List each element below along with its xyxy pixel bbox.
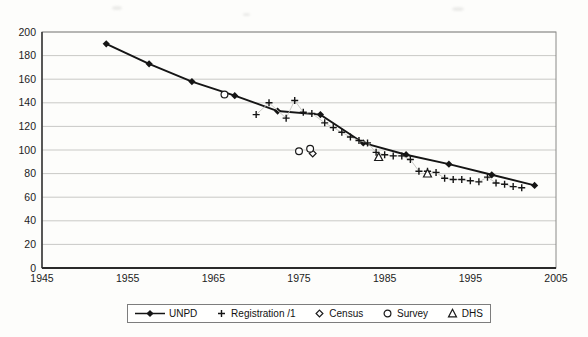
x-tick-label: 2005 xyxy=(544,272,568,284)
y-tick-label: 80 xyxy=(24,167,36,179)
series-connector-line xyxy=(256,100,522,187)
y-tick-label: 20 xyxy=(24,238,36,250)
plus-marker xyxy=(390,152,397,159)
legend-item-unpd: UNPD xyxy=(135,308,197,319)
plus-marker xyxy=(308,110,315,117)
y-tick-label: 180 xyxy=(18,49,36,61)
y-tick-label: 200 xyxy=(18,26,36,38)
y-tick-label: 140 xyxy=(18,96,36,108)
legend-item-census: Census xyxy=(314,308,363,319)
legend-label: Census xyxy=(329,308,363,319)
open-triangle-legend-icon xyxy=(447,308,458,319)
plus-marker xyxy=(493,180,500,187)
series-survey xyxy=(221,91,313,154)
filled-diamond-legend-icon xyxy=(135,308,165,319)
plus-marker xyxy=(347,134,354,141)
y-tick-label: 100 xyxy=(18,144,36,156)
plus-marker xyxy=(300,109,307,116)
diamond-marker xyxy=(146,310,153,317)
circle-marker xyxy=(296,148,303,155)
plus-legend-icon xyxy=(216,308,227,319)
plus-marker xyxy=(381,151,388,158)
y-tick-label: 60 xyxy=(24,191,36,203)
legend-item-dhs: DHS xyxy=(447,308,483,319)
y-tick-label: 120 xyxy=(18,120,36,132)
chart-legend: UNPDRegistration /1CensusSurveyDHS xyxy=(127,304,491,323)
y-tick-label: 40 xyxy=(24,214,36,226)
series-registration-1 xyxy=(253,97,526,191)
plus-marker xyxy=(433,169,440,176)
circle-marker xyxy=(384,310,391,317)
open-diamond-marker xyxy=(316,310,323,317)
chart-plot-area: 0204060801001201401601802001945195519651… xyxy=(0,0,588,337)
diamond-marker xyxy=(103,40,110,47)
circle-marker xyxy=(307,145,314,152)
diamond-marker xyxy=(231,92,238,99)
x-tick-label: 1945 xyxy=(30,272,54,284)
x-tick-label: 1955 xyxy=(116,272,140,284)
plus-marker xyxy=(450,176,457,183)
chart-page: 0204060801001201401601802001945195519651… xyxy=(0,0,588,337)
x-tick-label: 1965 xyxy=(202,272,226,284)
plus-marker xyxy=(475,178,482,185)
open-diamond-legend-icon xyxy=(314,308,325,319)
plus-marker xyxy=(441,175,448,182)
plus-marker xyxy=(510,183,517,190)
x-tick-label: 1995 xyxy=(459,272,483,284)
y-tick-label: 160 xyxy=(18,73,36,85)
open-circle-legend-icon xyxy=(382,308,393,319)
legend-label: Registration /1 xyxy=(231,308,295,319)
legend-item-registration-1: Registration /1 xyxy=(216,308,295,319)
legend-item-survey: Survey xyxy=(382,308,428,319)
plus-marker xyxy=(218,310,225,317)
circle-marker xyxy=(221,91,228,98)
plus-marker xyxy=(321,119,328,126)
plus-marker xyxy=(518,184,525,191)
x-tick-label: 1975 xyxy=(287,272,311,284)
x-tick-label: 1985 xyxy=(373,272,397,284)
plus-marker xyxy=(501,181,508,188)
plus-marker xyxy=(467,177,474,184)
plus-marker xyxy=(458,176,465,183)
diamond-marker xyxy=(445,161,452,168)
triangle-marker xyxy=(448,309,456,317)
series-unpd xyxy=(103,40,539,189)
diamond-marker xyxy=(531,182,538,189)
legend-label: UNPD xyxy=(169,308,197,319)
diamond-marker xyxy=(145,60,152,67)
legend-label: Survey xyxy=(397,308,428,319)
legend-label: DHS xyxy=(462,308,483,319)
